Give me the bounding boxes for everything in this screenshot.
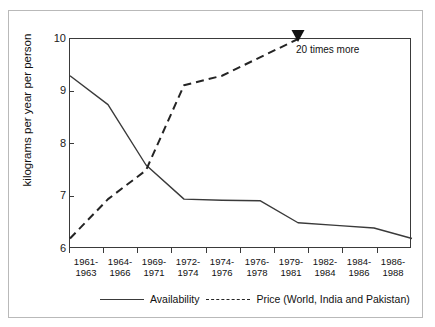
series-line-availability [70, 76, 412, 239]
x-tick-mark-3 [171, 248, 172, 253]
series-line-price [70, 39, 298, 239]
x-tick-mark-9 [377, 248, 378, 253]
x-tick-mark-6 [274, 248, 275, 253]
chart-figure: kilograms per year per person 10 9 8 7 6… [0, 0, 435, 327]
y-tick-label-8: 8 [44, 138, 66, 148]
y-axis-title: kilograms per year per person [21, 10, 33, 210]
annotation-20-times-more: 20 times more [296, 44, 359, 55]
legend-label-availability: Availability [150, 293, 199, 305]
y-tick-label-10: 10 [44, 33, 66, 43]
chart-legend: Availability Price (World, India and Pak… [100, 290, 420, 308]
legend-item-price: Price (World, India and Pakistan) [206, 293, 409, 305]
legend-swatch-solid-icon [100, 299, 144, 300]
legend-label-price: Price (World, India and Pakistan) [256, 293, 409, 305]
x-tick-mark-0 [69, 248, 70, 253]
x-tick-mark-4 [206, 248, 207, 253]
plot-area [69, 38, 411, 248]
x-tick-mark-2 [137, 248, 138, 253]
x-tick-mark-8 [342, 248, 343, 253]
series-canvas [70, 39, 412, 249]
y-tick-label-7: 7 [44, 190, 66, 200]
y-tick-label-6: 6 [44, 243, 66, 253]
x-tick-label-line1: 1986- [372, 256, 414, 267]
x-tick-label-1986-1988: 1986- 1988 [372, 256, 414, 278]
x-tick-mark-5 [240, 248, 241, 253]
x-tick-mark-7 [308, 248, 309, 253]
x-tick-label-line2: 1988 [372, 267, 414, 278]
y-axis-tick-labels: 10 9 8 7 6 [40, 0, 66, 327]
x-tick-mark-1 [103, 248, 104, 253]
legend-swatch-dashed-icon [206, 299, 250, 300]
y-tick-label-9: 9 [44, 85, 66, 95]
legend-item-availability: Availability [100, 293, 199, 305]
